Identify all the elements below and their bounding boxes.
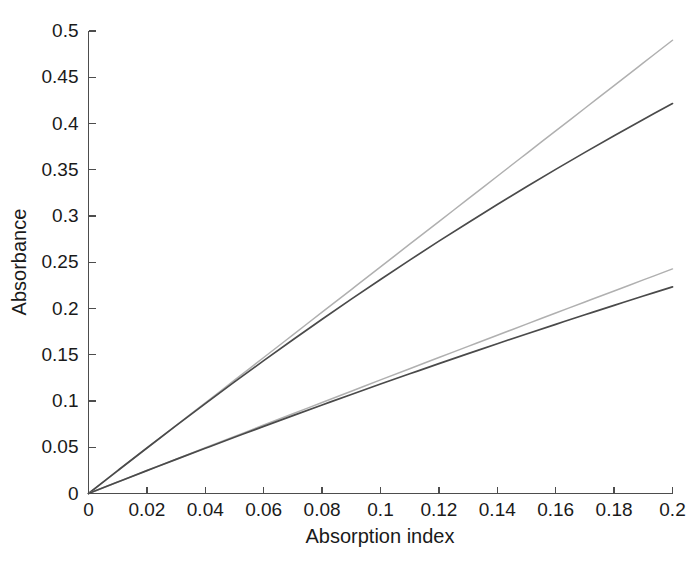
y-tick-label-10: 0.5 bbox=[52, 20, 78, 41]
x-axis-title: Absorption index bbox=[306, 525, 455, 547]
y-tick-label-9: 0.45 bbox=[42, 66, 79, 87]
figure-container: 00.020.040.060.080.10.120.140.160.180.2 … bbox=[0, 0, 695, 568]
y-tick-label-2: 0.1 bbox=[52, 390, 78, 411]
y-tick-label-4: 0.2 bbox=[52, 298, 78, 319]
x-tick-label-2: 0.04 bbox=[187, 499, 224, 520]
figure-background bbox=[0, 0, 695, 568]
x-tick-label-6: 0.12 bbox=[420, 499, 457, 520]
y-axis-title: Absorbance bbox=[8, 209, 30, 316]
x-tick-label-5: 0.1 bbox=[367, 499, 393, 520]
y-tick-label-8: 0.4 bbox=[52, 113, 79, 134]
y-tick-label-3: 0.15 bbox=[42, 344, 79, 365]
x-tick-label-7: 0.14 bbox=[479, 499, 516, 520]
x-tick-label-4: 0.08 bbox=[304, 499, 341, 520]
x-tick-label-9: 0.18 bbox=[596, 499, 633, 520]
x-tick-label-0: 0 bbox=[83, 499, 94, 520]
x-tick-label-3: 0.06 bbox=[245, 499, 282, 520]
x-tick-label-8: 0.16 bbox=[537, 499, 574, 520]
y-tick-label-5: 0.25 bbox=[42, 251, 79, 272]
y-tick-label-1: 0.05 bbox=[42, 436, 79, 457]
y-tick-label-0: 0 bbox=[68, 483, 79, 504]
chart-canvas: 00.020.040.060.080.10.120.140.160.180.2 … bbox=[0, 0, 695, 568]
y-tick-label-6: 0.3 bbox=[52, 205, 78, 226]
y-tick-label-7: 0.35 bbox=[42, 159, 79, 180]
x-tick-label-10: 0.2 bbox=[659, 499, 685, 520]
x-tick-label-1: 0.02 bbox=[128, 499, 165, 520]
